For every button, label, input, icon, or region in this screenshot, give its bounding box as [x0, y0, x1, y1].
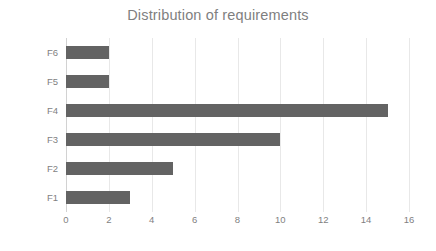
value-tick-16: 16: [394, 214, 424, 225]
bar-row: [66, 38, 409, 67]
bar-row: [66, 183, 409, 212]
bar-row: [66, 125, 409, 154]
bar-f5: [66, 75, 109, 88]
value-tick-14: 14: [351, 214, 381, 225]
value-tick-2: 2: [94, 214, 124, 225]
bar-row: [66, 96, 409, 125]
bar-f1: [66, 191, 130, 204]
value-tick-12: 12: [308, 214, 338, 225]
category-label-f4: F4: [20, 96, 66, 125]
value-tick-4: 4: [137, 214, 167, 225]
category-label-f1: F1: [20, 183, 66, 212]
bar-f6: [66, 46, 109, 59]
category-axis: F1F2F3F4F5F6: [12, 38, 66, 212]
bar-row: [66, 67, 409, 96]
value-tick-8: 8: [223, 214, 253, 225]
chart-title: Distribution of requirements: [0, 7, 436, 23]
bar-f3: [66, 133, 280, 146]
bar-chart: Distribution of requirements F1F2F3F4F5F…: [0, 0, 436, 251]
value-tick-6: 6: [180, 214, 210, 225]
category-label-f2: F2: [20, 154, 66, 183]
category-label-f5: F5: [20, 67, 66, 96]
value-tick-0: 0: [51, 214, 81, 225]
bar-row: [66, 154, 409, 183]
bar-f2: [66, 162, 173, 175]
value-axis-tick-labels: 0246810121416: [0, 214, 436, 234]
category-label-f6: F6: [20, 38, 66, 67]
value-tick-10: 10: [265, 214, 295, 225]
bar-f4: [66, 104, 388, 117]
gridline: [409, 38, 410, 212]
plot-area: [66, 38, 409, 212]
category-label-f3: F3: [20, 125, 66, 154]
